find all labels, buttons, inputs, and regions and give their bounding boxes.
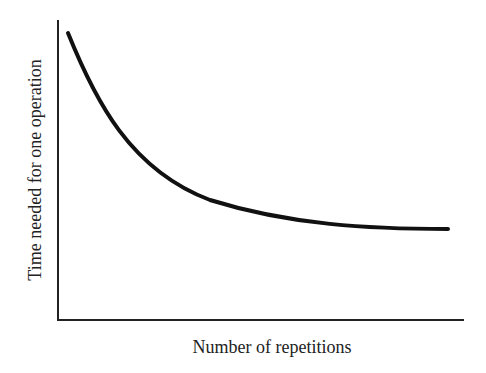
- learning-curve-line: [68, 33, 448, 229]
- x-axis-label: Number of repetitions: [193, 337, 352, 357]
- y-axis-label: Time needed for one operation: [25, 59, 45, 280]
- learning-curve-chart: Number of repetitions Time needed for on…: [0, 0, 486, 373]
